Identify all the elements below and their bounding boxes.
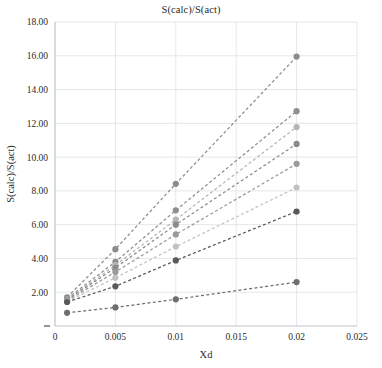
- data-point-marker: [112, 304, 118, 310]
- x-tick-label: 0.025: [346, 332, 368, 342]
- data-point-marker: [294, 54, 300, 60]
- series-group: [64, 141, 300, 303]
- series-line: [67, 211, 297, 302]
- series-group: [64, 54, 300, 301]
- chart-root: S(calc)/S(act) 2.004.006.008.0010.0012.0…: [0, 0, 382, 368]
- data-point-marker: [173, 231, 179, 237]
- x-tick-label: 0.01: [167, 332, 184, 342]
- series-line: [67, 57, 297, 298]
- data-point-marker: [64, 310, 70, 316]
- series-group: [64, 279, 300, 316]
- x-tick-label: 0.005: [105, 332, 127, 342]
- x-axis-label: Xd: [200, 349, 214, 360]
- data-point-marker: [173, 181, 179, 187]
- series-line: [67, 164, 297, 301]
- series-group: [64, 124, 300, 302]
- data-point-marker: [294, 108, 300, 114]
- data-point-marker: [294, 208, 300, 214]
- data-point-marker: [294, 161, 300, 167]
- y-tick-label: 6.00: [31, 220, 48, 230]
- y-tick-label: 8.00: [31, 186, 48, 196]
- data-point-marker: [112, 246, 118, 252]
- data-point-marker: [112, 283, 118, 289]
- x-tick-label: 0.02: [288, 332, 305, 342]
- series-line: [67, 282, 297, 313]
- y-tick-label: 12.00: [27, 119, 49, 129]
- y-tick-label: 16.00: [27, 51, 49, 61]
- data-point-marker: [173, 296, 179, 302]
- data-point-marker: [64, 299, 70, 305]
- data-point-marker: [173, 222, 179, 228]
- series-line: [67, 144, 297, 300]
- y-tick-label: 2.00: [31, 288, 48, 298]
- series-group: [64, 208, 300, 305]
- data-point-marker: [112, 269, 118, 275]
- data-point-marker: [294, 279, 300, 285]
- series-group: [64, 161, 300, 304]
- data-point-marker: [173, 244, 179, 250]
- x-tick-label: 0.015: [226, 332, 248, 342]
- data-point-marker: [294, 141, 300, 147]
- y-tick-label: 14.00: [27, 85, 49, 95]
- series-group: [64, 184, 300, 304]
- data-point-marker: [173, 257, 179, 263]
- plot-area: 2.004.006.008.0010.0012.0014.0016.0018.0…: [0, 0, 382, 368]
- data-point-marker: [112, 275, 118, 281]
- y-axis-label: S(calc)/S(act): [5, 145, 17, 203]
- x-tick-label: 0: [53, 332, 58, 342]
- data-point-marker: [294, 184, 300, 190]
- y-tick-label: 4.00: [31, 254, 48, 264]
- y-tick-label: 18.00: [27, 17, 49, 27]
- y-tick-label: 10.00: [27, 153, 49, 163]
- series-line: [67, 127, 297, 299]
- series-group: [64, 108, 300, 302]
- data-point-marker: [294, 124, 300, 130]
- chart-svg: 2.004.006.008.0010.0012.0014.0016.0018.0…: [0, 0, 382, 368]
- data-point-marker: [173, 207, 179, 213]
